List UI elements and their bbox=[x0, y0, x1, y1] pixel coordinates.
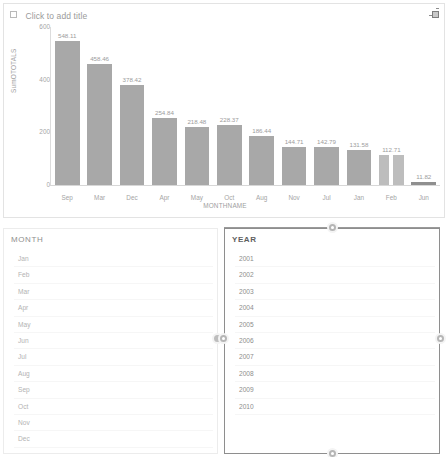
y-axis-tick: 200 bbox=[22, 128, 50, 135]
list-item[interactable]: Nov bbox=[14, 415, 213, 431]
x-axis-tick: Mar bbox=[83, 194, 115, 201]
bar[interactable] bbox=[314, 147, 339, 185]
x-axis-line bbox=[50, 185, 440, 186]
x-axis-tick: Jan bbox=[343, 194, 375, 201]
resize-handle-bottom[interactable] bbox=[327, 448, 338, 457]
bar-slot: 254.84Apr bbox=[148, 27, 180, 185]
x-axis-tick: Nov bbox=[278, 194, 310, 201]
year-list-items[interactable]: 2001200220032004200520062007200820092010 bbox=[235, 251, 435, 451]
x-axis-tick: Aug bbox=[246, 194, 278, 201]
list-item[interactable]: Oct bbox=[14, 399, 213, 415]
bar[interactable] bbox=[411, 182, 436, 185]
x-axis-tick: Apr bbox=[148, 194, 180, 201]
bar[interactable] bbox=[152, 118, 177, 185]
list-item[interactable]: 2009 bbox=[235, 382, 435, 398]
bar-slot: 112.71Feb bbox=[375, 27, 407, 185]
list-item[interactable]: 2003 bbox=[235, 284, 435, 300]
bar-slot: 144.71Nov bbox=[278, 27, 310, 185]
month-panel-header: MONTH bbox=[11, 235, 43, 244]
year-panel-header: YEAR bbox=[232, 235, 257, 244]
x-axis-tick: Sep bbox=[51, 194, 83, 201]
list-item[interactable]: 2007 bbox=[235, 349, 435, 365]
list-item[interactable]: 2006 bbox=[235, 333, 435, 349]
list-item[interactable]: Sep bbox=[14, 382, 213, 398]
bar[interactable] bbox=[379, 155, 404, 185]
list-item[interactable]: 2010 bbox=[235, 399, 435, 415]
bar-slot: 228.37Oct bbox=[213, 27, 245, 185]
month-list-items[interactable]: JanFebMarAprMayJunJulAugSepOctNovDec bbox=[14, 251, 213, 451]
list-item[interactable]: Jan bbox=[14, 251, 213, 267]
chart-title-bar[interactable]: Click to add title bbox=[4, 4, 444, 21]
bar-slot: 218.48May bbox=[181, 27, 213, 185]
list-item[interactable]: Mar bbox=[14, 284, 213, 300]
bar[interactable] bbox=[185, 127, 210, 185]
list-item[interactable]: Jun bbox=[14, 333, 213, 349]
list-item[interactable]: Apr bbox=[14, 300, 213, 316]
chart-title[interactable]: Click to add title bbox=[25, 11, 87, 21]
list-item[interactable]: 2005 bbox=[235, 317, 435, 333]
y-axis-tick: 0 bbox=[22, 181, 50, 188]
list-item[interactable]: Dec bbox=[14, 431, 213, 447]
bar[interactable] bbox=[87, 64, 112, 185]
x-axis-tick: Jun bbox=[408, 194, 440, 201]
bar[interactable] bbox=[55, 41, 80, 185]
y-axis-tick: 400 bbox=[22, 76, 50, 83]
x-axis-tick: Feb bbox=[375, 194, 407, 201]
bar-value-label: 11.82 bbox=[402, 173, 446, 180]
bar-slot: 458.46Mar bbox=[83, 27, 115, 185]
list-item[interactable]: May bbox=[14, 317, 213, 333]
title-placeholder-icon bbox=[10, 11, 17, 18]
bar-chart-plot: SumOTOTALS 6004002000 548.11Sep458.46Mar… bbox=[4, 21, 446, 218]
x-axis-tick: Jul bbox=[310, 194, 342, 201]
resize-expand-icon[interactable] bbox=[429, 8, 440, 19]
list-item[interactable]: Jul bbox=[14, 349, 213, 365]
x-axis-tick: May bbox=[181, 194, 213, 201]
bar-slot: 131.58Jan bbox=[343, 27, 375, 185]
x-axis-tick: Oct bbox=[213, 194, 245, 201]
bar-slot: 548.11Sep bbox=[51, 27, 83, 185]
bar-slot: 11.82Jun bbox=[408, 27, 440, 185]
y-axis-tick: 600 bbox=[22, 23, 50, 30]
bar[interactable] bbox=[282, 147, 307, 185]
bar-slot: 142.79Jul bbox=[310, 27, 342, 185]
bar-slot: 378.42Dec bbox=[116, 27, 148, 185]
year-list-panel[interactable]: YEAR 20012002200320042005200620072008200… bbox=[224, 228, 440, 454]
x-axis-title: MONTHNAME bbox=[4, 202, 446, 209]
x-axis-tick: Dec bbox=[116, 194, 148, 201]
y-axis-ticks: 6004002000 bbox=[4, 21, 50, 186]
resize-handle-left[interactable] bbox=[218, 333, 229, 344]
bar[interactable] bbox=[249, 136, 274, 185]
list-item[interactable]: 2001 bbox=[235, 251, 435, 267]
chart-panel[interactable]: Click to add title SumOTOTALS 6004002000… bbox=[3, 3, 445, 218]
bar[interactable] bbox=[120, 85, 145, 185]
list-item[interactable]: 2008 bbox=[235, 366, 435, 382]
month-list-panel[interactable]: MONTH JanFebMarAprMayJunJulAugSepOctNovD… bbox=[3, 228, 218, 454]
bar[interactable] bbox=[347, 150, 372, 185]
list-item[interactable]: 2004 bbox=[235, 300, 435, 316]
bar[interactable] bbox=[217, 125, 242, 185]
resize-handle-top[interactable] bbox=[327, 222, 338, 233]
bars-container: 548.11Sep458.46Mar378.42Dec254.84Apr218.… bbox=[51, 27, 440, 185]
list-item[interactable]: Feb bbox=[14, 267, 213, 283]
bar-slot: 186.44Aug bbox=[246, 27, 278, 185]
list-item[interactable]: Aug bbox=[14, 366, 213, 382]
list-item[interactable]: 2002 bbox=[235, 267, 435, 283]
resize-handle-right[interactable] bbox=[435, 333, 446, 344]
